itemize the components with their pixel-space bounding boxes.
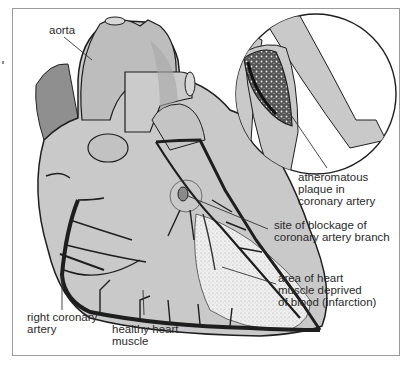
label-atheromatous-plaque: atheromatous plaque in coronary artery xyxy=(298,171,375,207)
label-aorta: aorta xyxy=(49,24,75,36)
blockage-site xyxy=(178,187,188,201)
label-blockage-site: site of blockage of coronary artery bran… xyxy=(274,219,390,243)
atrial-appendage xyxy=(88,134,128,162)
aorta-opening xyxy=(105,17,125,25)
label-infarction: area of heart muscle deprived of blood (… xyxy=(278,272,376,308)
label-right-coronary-artery: right coronary artery xyxy=(27,311,97,335)
label-healthy-heart-muscle: healthy heart muscle xyxy=(112,323,179,347)
